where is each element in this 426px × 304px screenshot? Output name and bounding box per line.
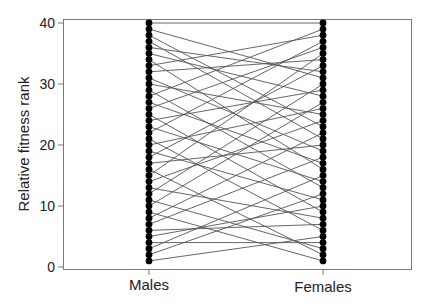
rank-link <box>149 35 323 127</box>
male-dot <box>146 142 153 149</box>
male-dot <box>146 203 153 210</box>
male-dot <box>146 50 153 57</box>
male-dot <box>146 197 153 204</box>
female-dot <box>320 215 327 222</box>
male-dot <box>146 239 153 246</box>
y-tick-label: 40 <box>39 15 55 31</box>
female-dot <box>320 178 327 185</box>
male-dot <box>146 190 153 197</box>
male-dot <box>146 209 153 216</box>
male-dot <box>146 44 153 51</box>
male-dot <box>146 129 153 136</box>
female-dot <box>320 123 327 130</box>
rank-link <box>149 29 323 96</box>
female-dot <box>320 203 327 210</box>
male-dot <box>146 148 153 155</box>
female-dot <box>320 32 327 39</box>
male-dot <box>146 184 153 191</box>
female-dot <box>320 142 327 149</box>
female-dot <box>320 105 327 112</box>
male-dot <box>146 172 153 179</box>
y-axis: 010203040 <box>39 15 63 275</box>
male-dot <box>146 117 153 124</box>
female-dot <box>320 68 327 75</box>
male-dot <box>146 38 153 45</box>
female-dot <box>320 129 327 136</box>
male-dot <box>146 26 153 33</box>
female-dot <box>320 44 327 51</box>
male-dot <box>146 93 153 100</box>
female-dot <box>320 209 327 216</box>
y-axis-title: Relative fitness rank <box>15 76 32 212</box>
female-dot <box>320 20 327 27</box>
female-dot <box>320 87 327 94</box>
female-dot <box>320 184 327 191</box>
female-dot <box>320 117 327 124</box>
male-dot <box>146 178 153 185</box>
female-dot <box>320 227 327 234</box>
female-dot <box>320 233 327 240</box>
female-dot <box>320 239 327 246</box>
female-dot <box>320 166 327 173</box>
male-dot <box>146 111 153 118</box>
rank-link <box>149 212 323 261</box>
rank-link <box>149 200 323 249</box>
category-label-females: Females <box>294 278 352 295</box>
female-dot <box>320 93 327 100</box>
y-tick-label: 20 <box>39 137 55 153</box>
male-dot <box>146 251 153 258</box>
female-dot <box>320 50 327 57</box>
male-dot <box>146 233 153 240</box>
male-dot <box>146 81 153 88</box>
y-tick-label: 10 <box>39 198 55 214</box>
rank-link <box>149 90 323 121</box>
female-dot <box>320 136 327 143</box>
female-dot <box>320 148 327 155</box>
female-dot <box>320 197 327 204</box>
female-dot <box>320 81 327 88</box>
female-dot <box>320 190 327 197</box>
male-dot <box>146 123 153 130</box>
male-dot <box>146 160 153 167</box>
male-dot <box>146 245 153 252</box>
female-dot <box>320 221 327 228</box>
female-dot <box>320 172 327 179</box>
female-dot <box>320 111 327 118</box>
x-axis: Males Females <box>129 270 352 295</box>
rank-link <box>149 121 323 182</box>
male-dot <box>146 136 153 143</box>
rank-chart: 010203040 Relative fitness rank Males Fe… <box>0 0 426 304</box>
female-dot <box>320 154 327 161</box>
female-dot <box>320 245 327 252</box>
y-tick-label: 30 <box>39 76 55 92</box>
male-dot <box>146 56 153 63</box>
category-label-males: Males <box>129 276 169 293</box>
female-dot <box>320 75 327 82</box>
male-dot <box>146 87 153 94</box>
female-dot <box>320 251 327 258</box>
y-tick-label: 0 <box>47 259 55 275</box>
male-dot <box>146 105 153 112</box>
male-dot <box>146 20 153 27</box>
male-dot <box>146 221 153 228</box>
male-dot <box>146 258 153 265</box>
rank-link <box>149 90 323 188</box>
rank-link <box>149 169 323 254</box>
female-dot <box>320 99 327 106</box>
female-dot <box>320 62 327 69</box>
male-dot <box>146 166 153 173</box>
male-dot <box>146 62 153 69</box>
female-dot <box>320 160 327 167</box>
rank-link <box>149 41 323 133</box>
rank-link <box>149 108 323 145</box>
rank-link <box>149 29 323 78</box>
male-dot <box>146 68 153 75</box>
male-dot <box>146 154 153 161</box>
male-dot <box>146 227 153 234</box>
rank-link <box>149 224 323 230</box>
female-dot <box>320 258 327 265</box>
female-dot <box>320 26 327 33</box>
female-dot <box>320 38 327 45</box>
female-dot <box>320 56 327 63</box>
male-dot <box>146 215 153 222</box>
